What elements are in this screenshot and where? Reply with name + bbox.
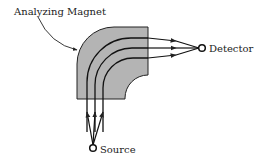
magnet-label: Analyzing Magnet <box>13 6 106 17</box>
magnet-pointer <box>38 17 77 50</box>
mass-spectrometer-diagram: Analyzing Magnet Detector Source <box>0 0 259 159</box>
source-label: Source <box>100 144 136 155</box>
detector-label: Detector <box>209 43 254 54</box>
source-point <box>90 145 97 152</box>
detector-point <box>199 45 206 52</box>
detector-rays <box>148 38 199 58</box>
